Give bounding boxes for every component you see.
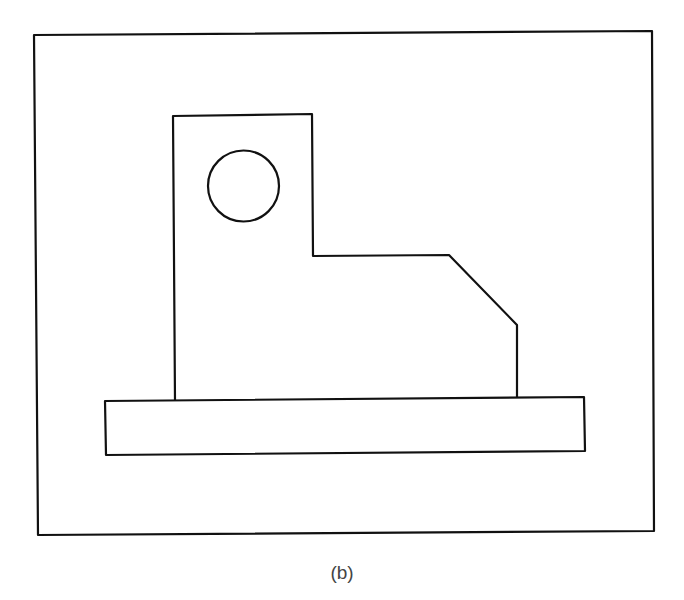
figure-caption: (b) [0,562,684,584]
base-plate [105,397,585,455]
outer-frame [34,31,654,535]
hole-circle [208,151,279,222]
technical-drawing [0,0,684,600]
